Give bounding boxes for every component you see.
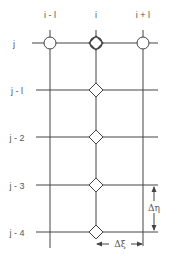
row-label-j-minus-1: j - l [10,86,23,96]
row-label-j: j [12,39,15,49]
circle-node-icon [137,37,149,49]
row-label-j-minus-2: j - 2 [8,133,24,143]
diamond-node-icon [89,130,103,144]
diamond-node-icon [89,225,103,239]
row-label-j-minus-4: j - 4 [8,228,24,238]
column-label-i-plus-1: i + l [136,10,150,20]
diamond-node-icon [89,83,103,97]
column-label-i: i [95,10,97,20]
circle-node-icon [44,37,56,49]
delta-eta-label: Δη [148,203,160,213]
diamond-node-icon [89,36,103,50]
column-label-i-minus-1: i - l [44,10,56,20]
row-label-j-minus-3: j - 3 [8,181,24,191]
diamond-node-icon [89,178,103,192]
delta-xi-label: Δξ [114,239,125,249]
finite-difference-grid: i - l i i + l j j - l j - 2 j - 3 j - 4 … [0,0,169,263]
